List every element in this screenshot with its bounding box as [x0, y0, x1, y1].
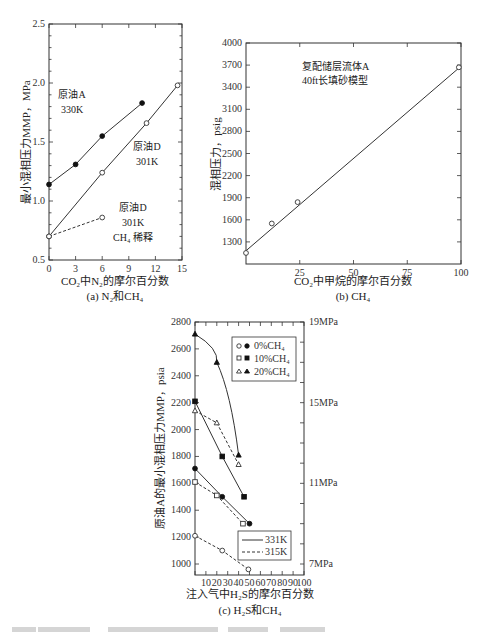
- data-point: [456, 65, 461, 70]
- svg-text:80: 80: [277, 577, 287, 588]
- svg-text:15MPa: 15MPa: [309, 397, 338, 408]
- svg-text:1300: 1300: [222, 236, 242, 247]
- svg-text:2800: 2800: [222, 125, 242, 136]
- data-point: [193, 533, 198, 538]
- data-point: [73, 162, 78, 167]
- annotation-oil-d-ch4: 原油D: [119, 201, 146, 213]
- data-point: [242, 494, 247, 499]
- svg-text:1600: 1600: [171, 477, 191, 488]
- svg-text:0.5: 0.5: [33, 254, 46, 265]
- annotation-oil-d: 原油D: [133, 140, 160, 152]
- panel-b-caption: (b) CH₄: [336, 290, 371, 303]
- panel-c-x-label: 注入气中H₂S的摩尔百分数: [186, 587, 314, 600]
- annotation-reservoir-fluid: 复配储层流体A: [302, 60, 370, 72]
- svg-text:1000: 1000: [171, 558, 191, 569]
- panel-b-y-label: 混相压力，psig: [210, 117, 222, 191]
- data-point: [236, 452, 241, 457]
- data-point: [215, 493, 220, 498]
- data-point: [47, 182, 52, 187]
- svg-text:1.0: 1.0: [33, 195, 46, 206]
- panel-c-y-label: 原油A的最小混相压力MMP，psia: [153, 367, 166, 528]
- data-point: [214, 420, 219, 425]
- svg-text:6: 6: [100, 263, 105, 274]
- svg-text:1200: 1200: [171, 531, 191, 542]
- svg-text:2.0: 2.0: [33, 77, 46, 88]
- svg-text:1.5: 1.5: [33, 136, 46, 147]
- series-line: [195, 411, 239, 465]
- svg-text:2400: 2400: [171, 370, 191, 381]
- svg-text:3700: 3700: [222, 59, 242, 70]
- panel-c-caption: (c) H₂S和CH₄: [219, 604, 282, 617]
- svg-text:1900: 1900: [222, 192, 242, 203]
- panel-c-chart: 1020304050607080901001000120014001600180…: [153, 316, 338, 617]
- svg-text:100: 100: [297, 577, 312, 588]
- svg-text:2200: 2200: [222, 170, 242, 181]
- data-point: [220, 454, 225, 459]
- svg-text:1800: 1800: [171, 450, 191, 461]
- data-point: [193, 399, 198, 404]
- svg-text:3400: 3400: [222, 81, 242, 92]
- panel-a-y-label: 最小混相压力MMP，MPa: [20, 80, 32, 204]
- data-point: [100, 215, 105, 220]
- svg-text:30: 30: [223, 577, 233, 588]
- legend-10-ch4: 10%CH₄: [254, 353, 290, 364]
- annotation-ch4-dilution: CH₄ 稀释: [113, 231, 153, 243]
- data-point: [144, 121, 149, 126]
- svg-text:20: 20: [212, 577, 222, 588]
- data-point: [47, 234, 52, 239]
- svg-text:15: 15: [177, 263, 187, 274]
- svg-text:50: 50: [245, 577, 255, 588]
- svg-text:2.5: 2.5: [33, 18, 46, 29]
- svg-text:0: 0: [47, 263, 52, 274]
- data-point: [140, 101, 145, 106]
- annotation-sandpack: 40ft长填砂模型: [302, 74, 368, 86]
- svg-text:4000: 4000: [222, 37, 242, 48]
- annotation-oil-a-temp: 330K: [61, 104, 84, 115]
- data-point: [295, 200, 300, 205]
- series-line: [195, 482, 243, 524]
- panel-b-ticks: 2550751001300160019002200250028003100340…: [222, 37, 469, 278]
- svg-text:1600: 1600: [222, 214, 242, 225]
- panel-c-line-legend: 331K 315K: [238, 531, 291, 560]
- legend-0-ch4: 0%CH₄: [254, 340, 285, 351]
- svg-text:9: 9: [126, 263, 131, 274]
- svg-text:1400: 1400: [171, 504, 191, 515]
- svg-text:2500: 2500: [222, 148, 242, 159]
- panel-a-ticks: 036912150.51.01.52.02.5: [33, 18, 188, 274]
- panel-b-series: [244, 65, 462, 255]
- svg-text:70: 70: [266, 577, 276, 588]
- data-point: [246, 567, 251, 572]
- svg-text:7MPa: 7MPa: [309, 558, 333, 569]
- svg-text:12: 12: [150, 263, 160, 274]
- svg-text:10: 10: [201, 577, 211, 588]
- data-point: [100, 170, 105, 175]
- data-point: [193, 480, 198, 485]
- data-point: [244, 251, 249, 256]
- data-point: [175, 83, 180, 88]
- fit-line: [246, 68, 459, 251]
- data-point: [241, 521, 246, 526]
- annotation-oil-d-ch4-temp: 301K: [122, 217, 145, 228]
- series-line: [195, 401, 244, 496]
- data-point: [214, 360, 219, 365]
- data-point: [192, 331, 197, 336]
- svg-text:2200: 2200: [171, 397, 191, 408]
- data-point: [220, 494, 225, 499]
- annotation-oil-a: 原油A: [58, 88, 86, 100]
- svg-text:3: 3: [73, 263, 78, 274]
- panel-c-marker-legend: 0%CH₄ 10%CH₄ 20%CH₄: [232, 337, 296, 381]
- data-point: [247, 521, 252, 526]
- panel-b-chart: 2550751001300160019002200250028003100340…: [210, 37, 469, 303]
- svg-text:11MPa: 11MPa: [309, 477, 338, 488]
- svg-text:100: 100: [454, 267, 469, 278]
- data-point: [193, 466, 198, 471]
- svg-text:2600: 2600: [171, 343, 191, 354]
- figure: 036912150.51.01.52.02.5 原油A 330K 原油D 301…: [0, 0, 485, 632]
- annotation-oil-d-temp: 301K: [136, 156, 159, 167]
- panel-b-x-label: CO₂中甲烷的摩尔百分数: [294, 274, 412, 287]
- svg-text:19MPa: 19MPa: [309, 316, 338, 327]
- legend-315k: 315K: [265, 546, 288, 557]
- data-point: [220, 548, 225, 553]
- panel-a-chart: 036912150.51.01.52.02.5 原油A 330K 原油D 301…: [20, 18, 187, 303]
- data-point: [236, 462, 241, 467]
